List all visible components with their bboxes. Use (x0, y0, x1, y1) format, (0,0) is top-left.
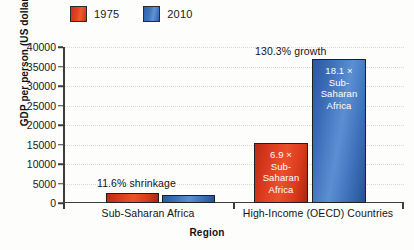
bar-oecd-1975-line3: Saharan (255, 172, 307, 184)
ytick-mark-5000 (58, 183, 63, 185)
ytick-label-10000: 10000 (27, 158, 56, 170)
bar-oecd-2010-line2: Sub- (313, 77, 365, 89)
legend-label-1975: 1975 (94, 8, 119, 20)
annotation-oecd-growth: 130.3% growth (255, 45, 326, 57)
legend-swatch-1975 (70, 6, 87, 22)
bar-oecd-1975-line4: Africa (255, 184, 307, 196)
ytick-label-25000: 25000 (27, 100, 56, 112)
bar-oecd-1975-label: 6.9 × Sub- Saharan Africa (255, 149, 307, 195)
ytick-mark-10000 (58, 163, 63, 165)
ytick-label-0: 0 (50, 197, 56, 209)
legend-item-1975: 1975 (70, 6, 119, 22)
bar-ssa-1975[interactable] (106, 193, 159, 203)
chart-legend: 1975 2010 (70, 6, 193, 22)
ytick-mark-15000 (58, 144, 63, 146)
ytick-mark-35000 (58, 66, 63, 68)
bar-oecd-2010-line4: Africa (313, 100, 365, 112)
bar-ssa-2010[interactable] (162, 195, 215, 204)
ytick-mark-25000 (58, 105, 63, 107)
bar-oecd-2010-line1: 18.1 × (313, 65, 365, 77)
legend-label-2010: 2010 (167, 8, 192, 20)
x-category-label-oecd: High-Income (OECD) Countries (233, 207, 403, 219)
ytick-label-15000: 15000 (27, 139, 56, 151)
bar-oecd-1975-line1: 6.9 × (255, 149, 307, 161)
ytick-label-5000: 5000 (33, 178, 56, 190)
ytick-label-40000: 40000 (27, 41, 56, 53)
ytick-mark-40000 (58, 46, 63, 48)
chart-container: 1975 2010 GDP per person (US dollars) 40… (0, 0, 414, 250)
x-category-label-ssa: Sub-Saharan Africa (63, 207, 233, 219)
ytick-label-35000: 35000 (27, 61, 56, 73)
plot-area: 40000 35000 30000 25000 20000 15000 1000… (63, 47, 404, 203)
ytick-label-20000: 20000 (27, 119, 56, 131)
bar-oecd-1975-line2: Sub- (255, 161, 307, 173)
bar-oecd-2010-line3: Saharan (313, 88, 365, 100)
ytick-mark-20000 (58, 124, 63, 126)
bar-oecd-2010[interactable]: 18.1 × Sub- Saharan Africa (312, 59, 366, 203)
bar-oecd-2010-label: 18.1 × Sub- Saharan Africa (313, 65, 365, 111)
legend-swatch-2010 (143, 6, 160, 22)
gridline-40000 (65, 47, 404, 49)
x-axis-title: Region (0, 227, 414, 238)
bar-oecd-1975[interactable]: 6.9 × Sub- Saharan Africa (254, 143, 308, 203)
ytick-label-30000: 30000 (27, 80, 56, 92)
legend-item-2010: 2010 (143, 6, 192, 22)
annotation-ssa-shrinkage: 11.6% shrinkage (97, 177, 176, 189)
ytick-mark-30000 (58, 85, 63, 87)
